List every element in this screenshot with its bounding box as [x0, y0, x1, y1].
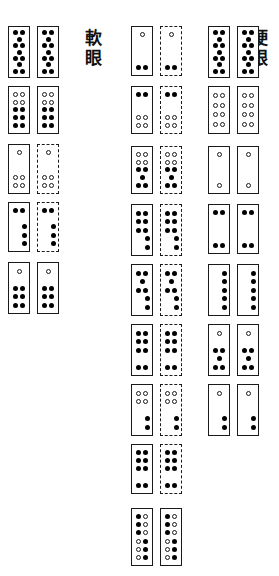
hollow-pip: [242, 112, 247, 117]
pip-row: [209, 356, 229, 361]
pip-row: [209, 243, 229, 248]
filled-pip: [165, 211, 170, 216]
filled-pip: [213, 365, 218, 370]
hollow-pip: [49, 100, 54, 105]
hollow-pip: [169, 32, 174, 37]
pip-row: [132, 458, 152, 463]
pip-row: [36, 241, 60, 246]
pip-row: [132, 331, 152, 336]
filled-pip: [242, 69, 247, 74]
domino-tile: [37, 144, 59, 194]
hollow-pip: [249, 122, 254, 127]
hollow-pip: [136, 539, 141, 544]
filled-pip: [143, 365, 148, 370]
filled-pip: [20, 69, 25, 74]
domino-tile: [237, 324, 259, 376]
filled-pip: [165, 458, 170, 463]
pip-row: [159, 416, 183, 421]
filled-pip: [143, 65, 148, 70]
filled-pip: [51, 233, 56, 238]
filled-pip: [251, 425, 256, 430]
pip-row: [238, 62, 258, 67]
pip-row: [161, 160, 181, 165]
filled-pip: [242, 348, 247, 353]
pip-row: [159, 425, 183, 430]
heading-soft-char-1: 軟: [72, 28, 114, 48]
hollow-pip: [13, 100, 18, 105]
hollow-pip: [249, 112, 254, 117]
pip-row: [38, 107, 58, 112]
filled-pip: [246, 50, 251, 55]
domino-tile: [8, 262, 30, 314]
filled-pip: [143, 228, 148, 233]
filled-pip: [140, 175, 145, 180]
pip-row: [9, 50, 29, 55]
hollow-pip: [172, 160, 177, 165]
pip-row: [161, 356, 181, 361]
filled-pip: [246, 37, 251, 42]
filled-pip: [213, 30, 218, 35]
filled-pip: [174, 305, 179, 310]
pip-row: [209, 50, 229, 55]
paigow-tile-chart: 軟 眼 硬 眼: [0, 0, 279, 576]
domino-tile: [208, 384, 230, 436]
hollow-pip: [143, 123, 148, 128]
filled-pip: [165, 288, 170, 293]
filled-pip: [17, 37, 22, 42]
domino-tile: [208, 264, 230, 316]
pip-row: [132, 339, 152, 344]
filled-pip: [242, 43, 247, 48]
hollow-pip: [140, 32, 145, 37]
tile-pair: [131, 146, 182, 194]
pip-row: [161, 57, 181, 62]
tile-pair: [131, 264, 182, 316]
filled-pip: [220, 69, 225, 74]
hollow-pip: [172, 530, 177, 535]
filled-pip: [242, 210, 247, 215]
filled-pip: [136, 522, 141, 527]
hollow-pip: [217, 391, 222, 396]
hollow-pip: [217, 152, 222, 157]
filled-pip: [136, 219, 141, 224]
domino-tile: [237, 204, 259, 254]
filled-pip: [13, 294, 18, 299]
pip-row: [161, 530, 181, 535]
pip-row: [38, 286, 58, 291]
filled-pip: [136, 483, 141, 488]
pip-row: [209, 408, 229, 413]
pip-row: [132, 522, 152, 527]
filled-pip: [213, 210, 218, 215]
filled-pip: [22, 241, 27, 246]
hollow-pip: [17, 269, 22, 274]
filled-pip: [174, 416, 179, 421]
filled-pip: [165, 466, 170, 471]
hollow-pip: [242, 122, 247, 127]
pip-row: [161, 65, 181, 70]
pip-row: [209, 399, 229, 404]
hollow-pip: [17, 150, 22, 155]
filled-pip: [169, 175, 174, 180]
filled-pip: [222, 271, 227, 276]
filled-pip: [136, 466, 141, 471]
hollow-pip: [13, 183, 18, 188]
pip-row: [238, 348, 258, 353]
filled-pip: [20, 294, 25, 299]
domino-tile: [160, 264, 182, 316]
pip-row: [161, 547, 181, 552]
tile-pair: [131, 204, 182, 256]
filled-pip: [222, 296, 227, 301]
filled-pip: [13, 30, 18, 35]
pip-row: [132, 40, 152, 45]
pip-row: [236, 288, 260, 293]
filled-pip: [42, 56, 47, 61]
domino-tile: [131, 324, 153, 376]
filled-pip: [136, 339, 141, 344]
heading-soft-char-2: 眼: [72, 48, 114, 68]
filled-pip: [249, 56, 254, 61]
filled-pip: [172, 331, 177, 336]
hollow-pip: [165, 547, 170, 552]
pip-row: [132, 279, 152, 284]
filled-pip: [172, 65, 177, 70]
filled-pip: [220, 30, 225, 35]
domino-tile: [37, 86, 59, 134]
